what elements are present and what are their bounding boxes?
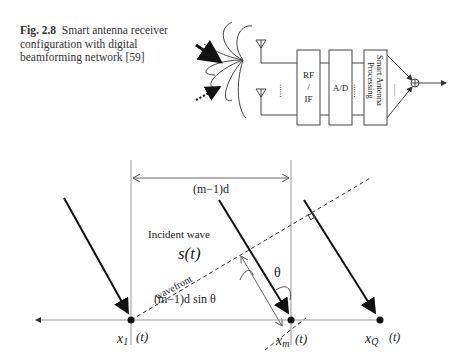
desired-signal-arrow [196, 45, 218, 60]
svg-text:(t): (t) [389, 330, 400, 344]
ad-label: A/D [333, 83, 349, 93]
incident-ray-m [219, 200, 287, 311]
xq-label: xQ [364, 331, 379, 347]
block-diagram: ...... RF / IF A/D ...... Smart Antenna … [196, 22, 446, 125]
svg-text:(t): (t) [295, 331, 307, 346]
array-geometry-diagram: (m−1)d Incident wave s(t) wavefront (m−1… [36, 160, 400, 350]
path-difference-label: (m−1)d sin θ [154, 292, 216, 306]
svg-text:(t): (t) [136, 329, 148, 344]
rf-label: RF [303, 70, 314, 80]
svg-text:......: ...... [392, 84, 401, 96]
beam-pattern-icon [204, 22, 252, 118]
incident-ray-1 [64, 198, 127, 311]
theta-label: θ [274, 265, 281, 280]
element-xm [288, 317, 295, 324]
signal-label: s(t) [178, 244, 201, 263]
slash-label: / [307, 82, 310, 92]
svg-text:......: ...... [352, 84, 362, 98]
channel-ellipsis: ...... [278, 84, 288, 98]
xm-label: xm [275, 333, 289, 349]
incident-wave-label: Incident wave [148, 228, 210, 240]
if-label: IF [304, 94, 312, 104]
interference-arrow [196, 88, 218, 100]
x1-label: x1 [116, 331, 128, 347]
sap-label-line2: Processing [366, 62, 376, 100]
antenna-icon [256, 40, 297, 115]
element-xq [377, 317, 384, 324]
element-x1 [128, 317, 135, 324]
figure-diagram: ...... RF / IF A/D ...... Smart Antenna … [0, 0, 466, 359]
spacing-label: (m−1)d [193, 182, 229, 196]
